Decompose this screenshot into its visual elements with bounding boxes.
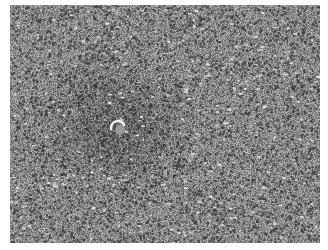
micrograph-frame (10, 5, 320, 243)
histology-image (10, 5, 320, 243)
